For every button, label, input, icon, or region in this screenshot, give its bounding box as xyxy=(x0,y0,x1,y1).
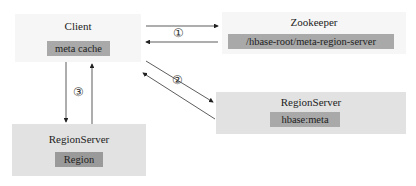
step-2-label: ② xyxy=(172,73,183,88)
connector-arrows xyxy=(0,0,416,186)
step-3-label: ③ xyxy=(73,85,84,100)
step-1-label: ① xyxy=(173,26,184,41)
